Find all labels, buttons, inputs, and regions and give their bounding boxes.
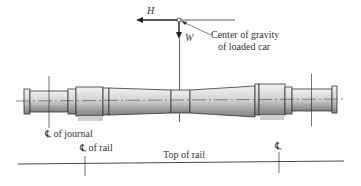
h-force-arrow: [136, 17, 178, 23]
top-of-rail-line: [18, 161, 344, 164]
center-of-gravity-point: [177, 18, 181, 22]
left-wheel-seat-shadow: [78, 116, 103, 121]
centerline-symbol: ℄: [45, 128, 51, 139]
axle: [24, 84, 337, 121]
centerline-symbol: ℄: [80, 142, 86, 153]
cg-label-line2: of loaded car: [218, 41, 270, 52]
w-force-label: W: [185, 32, 193, 43]
right-rail-centerline-symbol: ℄: [275, 140, 281, 151]
top-of-rail-label: Top of rail: [163, 149, 205, 160]
h-force-label: H: [147, 5, 154, 16]
rail-centerline-label: ℄ of rail: [80, 142, 113, 153]
cg-label-line1: Center of gravity: [211, 29, 279, 40]
right-wheel-seat-shadow: [260, 115, 284, 120]
journal-centerline-label: ℄ of journal: [45, 128, 93, 139]
w-force-arrow: [176, 20, 182, 39]
